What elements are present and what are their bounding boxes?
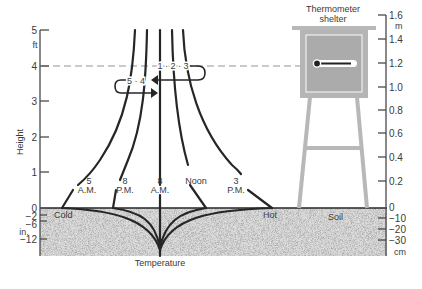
temperature-profile-diagram: 1 · 2 · 3 5 · 4 5 A.M. 8 P.M. 8 A.M. Noo… (0, 0, 422, 289)
left-tick-1: 1 (31, 167, 37, 178)
right-tick-0-2: 0.2 (389, 176, 403, 187)
left-unit-in: in. (19, 227, 29, 237)
curve-label-3pm-line2: P.M. (227, 185, 244, 195)
right-tick-0: 0 (389, 202, 395, 213)
curve-label-8pm-line2: P.M. (116, 185, 133, 195)
right-axis-labels: 1.6 1.4 1.2 1.0 0.8 0.6 0.4 0.2 0 −10 −2… (389, 10, 406, 246)
curve-label-5am-line2: A.M. (78, 185, 97, 195)
right-unit-cm: cm (394, 247, 406, 257)
curve-label-noon: Noon (185, 176, 207, 186)
left-tick-3: 3 (31, 96, 37, 107)
arrowhead-left-icon (151, 75, 158, 85)
arrowhead-right-icon (151, 88, 158, 98)
temperature-axis-label: Temperature (135, 258, 186, 268)
shelter-label-line2: shelter (319, 14, 346, 24)
left-tick-5: 5 (31, 25, 37, 36)
hot-label: Hot (263, 210, 278, 220)
left-tick-4: 4 (31, 61, 37, 72)
shelter-label-line1: Thermometer (306, 4, 360, 14)
left-unit-ft: ft (32, 40, 38, 50)
soil-label: Soil (328, 212, 343, 222)
right-tick-0-6: 0.6 (389, 128, 403, 139)
right-tick-1-2: 1.2 (389, 58, 403, 69)
right-unit-m: m (395, 21, 403, 31)
left-axis-title: Height (15, 128, 25, 155)
right-tick-0-8: 0.8 (389, 105, 403, 116)
thermometer-shelter (292, 26, 376, 208)
right-tick-1-6: 1.6 (389, 10, 403, 21)
curve-labels: 5 A.M. 8 P.M. 8 A.M. Noon 3 P.M. (78, 176, 245, 195)
right-tick-minus10: −10 (389, 213, 406, 224)
curve-8pm (113, 30, 147, 208)
right-tick-0-4: 0.4 (389, 152, 403, 163)
right-tick-1-0: 1.0 (389, 82, 403, 93)
cold-label: Cold (54, 210, 73, 220)
right-tick-minus30: −30 (389, 235, 406, 246)
left-tick-2: 2 (31, 132, 37, 143)
right-tick-minus20: −20 (389, 224, 406, 235)
lower-arrow-label: 5 · 4 (127, 76, 145, 86)
curve-label-8am-line2: A.M. (151, 185, 170, 195)
upper-arrow-label: 1 · 2 · 3 (157, 61, 188, 71)
right-tick-1-4: 1.4 (389, 34, 403, 45)
thermometer-icon (313, 60, 357, 67)
